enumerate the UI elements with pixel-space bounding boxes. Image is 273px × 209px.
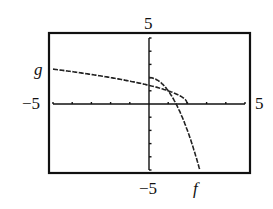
y-max-label: 5 [144,15,153,32]
curve-g [53,69,187,104]
plot-area [0,0,273,209]
curve-label-g: g [34,61,43,78]
x-min-label: −5 [22,95,40,112]
curves [53,69,200,170]
y-min-label: −5 [139,180,157,197]
x-max-label: 5 [255,95,264,112]
curve-label-f: f [193,180,198,197]
axes [53,38,245,170]
curve-f [149,78,200,171]
